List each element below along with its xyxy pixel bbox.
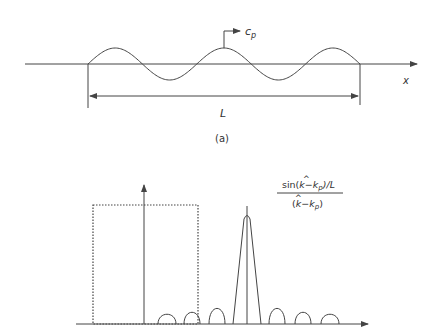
side-lobe	[209, 308, 225, 324]
side-lobe	[321, 314, 339, 324]
side-lobe	[158, 314, 176, 324]
side-lobe	[269, 308, 285, 324]
sinc-formula: sin(k−kp)/L ^ (k−kp) ^	[277, 175, 343, 211]
khat-accent-den: ^	[295, 194, 302, 203]
length-label: L	[220, 107, 226, 120]
diagram-canvas: cp x L (a) sin(k−kp)/L ^ (k−kp) ^	[0, 0, 431, 327]
figure-b: sin(k−kp)/L ^ (k−kp) ^	[76, 175, 368, 324]
figure-a: cp x L (a)	[25, 25, 417, 144]
side-lobe	[295, 312, 311, 324]
figure-caption-a: (a)	[215, 133, 229, 144]
khat-accent-num: ^	[303, 175, 310, 184]
phase-speed-label: cp	[245, 25, 256, 40]
side-lobes	[158, 308, 339, 324]
phase-speed-arrow	[224, 31, 240, 48]
dotted-box-spectrum	[93, 205, 198, 324]
x-axis-label: x	[402, 75, 409, 86]
